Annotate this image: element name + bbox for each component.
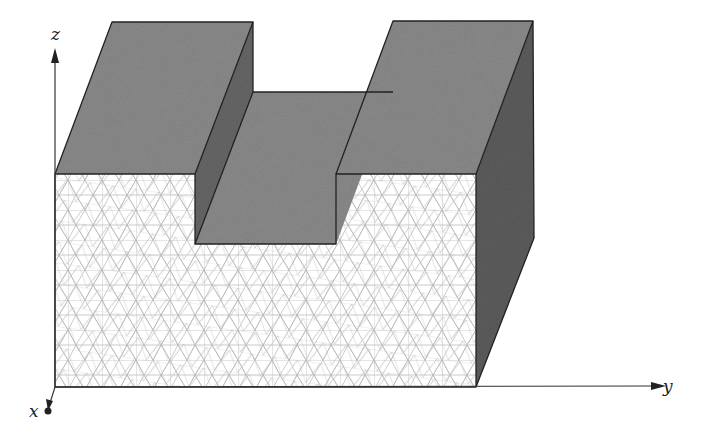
origin-dot [45, 408, 52, 415]
z-axis-label: z [50, 24, 61, 44]
diagram-canvas: z y x [0, 0, 707, 437]
x-axis-label: x [29, 401, 39, 421]
y-axis-label: y [662, 376, 673, 396]
z-axis-arrowhead [51, 48, 59, 63]
